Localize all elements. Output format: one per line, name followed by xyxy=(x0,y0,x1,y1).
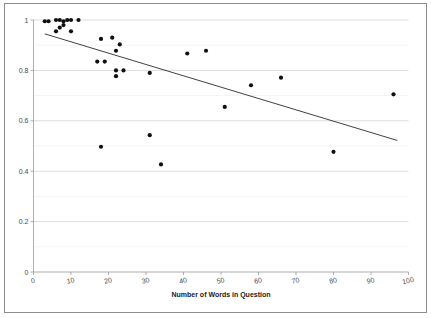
data-points xyxy=(43,18,396,167)
data-point xyxy=(391,92,395,96)
data-point xyxy=(148,71,152,75)
data-point xyxy=(43,19,47,23)
data-point xyxy=(58,18,62,22)
data-point xyxy=(204,49,208,53)
data-point xyxy=(46,19,50,23)
data-point xyxy=(99,37,103,41)
y-axis-tick-labels: 00.20.40.60.81 xyxy=(19,17,34,276)
data-point xyxy=(331,150,335,154)
x-tick-label: 30 xyxy=(141,276,150,284)
x-tick-label: 70 xyxy=(291,276,300,284)
x-tick-label: 60 xyxy=(253,276,262,284)
data-point xyxy=(65,18,69,22)
data-point xyxy=(58,25,62,29)
trendline-segment xyxy=(45,34,398,141)
y-tick-label: 0.6 xyxy=(19,117,29,124)
y-tick-label: 0.8 xyxy=(19,67,29,74)
data-point xyxy=(54,18,58,22)
x-tick-label: 50 xyxy=(216,276,225,284)
data-point xyxy=(159,162,163,166)
data-point xyxy=(69,29,73,33)
trendline xyxy=(45,34,398,141)
x-tick-label: 100 xyxy=(402,276,415,285)
data-point xyxy=(223,105,227,109)
data-point xyxy=(99,145,103,149)
data-point xyxy=(103,59,107,63)
x-tick-label: 40 xyxy=(178,276,187,284)
x-tick-label: 90 xyxy=(366,276,375,284)
data-point xyxy=(148,133,152,137)
data-point xyxy=(61,23,65,27)
data-point xyxy=(69,18,73,22)
data-point xyxy=(121,68,125,72)
data-point xyxy=(114,74,118,78)
data-point xyxy=(279,76,283,80)
data-point xyxy=(61,19,65,23)
data-point xyxy=(76,18,80,22)
x-axis-tick-labels: 0102030405060708090100 xyxy=(30,272,414,285)
y-tick-label: 1 xyxy=(25,17,29,24)
data-point xyxy=(110,36,114,40)
x-tick-label: 10 xyxy=(66,276,75,284)
x-tick-label: 80 xyxy=(328,276,337,284)
data-point xyxy=(114,68,118,72)
data-point xyxy=(114,49,118,53)
data-point xyxy=(185,51,189,55)
data-point xyxy=(54,29,58,33)
data-point xyxy=(118,42,122,46)
scatter-plot: 00.20.40.60.81 0102030405060708090100 Nu… xyxy=(0,0,431,318)
y-tick-label: 0.2 xyxy=(19,218,29,225)
data-point xyxy=(95,59,99,63)
major-gridlines xyxy=(34,20,409,222)
x-tick-label: 20 xyxy=(103,276,112,284)
y-tick-label: 0.4 xyxy=(19,168,29,175)
minor-gridlines xyxy=(34,45,409,247)
x-axis-title: Number of Words in Question xyxy=(171,291,270,299)
chart-figure: 00.20.40.60.81 0102030405060708090100 Nu… xyxy=(0,0,431,318)
data-point xyxy=(249,83,253,87)
x-tick-label: 0 xyxy=(30,277,35,285)
y-tick-label: 0 xyxy=(25,269,29,276)
